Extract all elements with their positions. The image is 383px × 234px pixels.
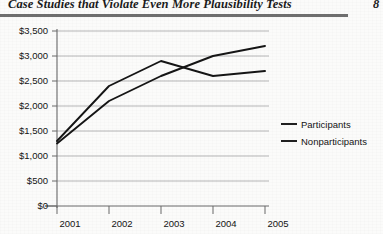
header-divider — [0, 14, 348, 17]
y-axis-labels: $3,500 $3,000 $2,500 $2,000 $1,500 $1,00… — [19, 25, 48, 211]
legend-label-nonparticipants: Nonparticipants — [301, 136, 367, 147]
x-axis-labels: 2001 2002 2003 2004 2005 — [59, 218, 288, 229]
page-number: 8 — [373, 0, 383, 12]
page-title: Case Studies that Violate Even More Plau… — [8, 0, 292, 12]
x-tick-label: 2003 — [163, 218, 184, 229]
y-tick-label: $3,000 — [19, 50, 48, 61]
y-tick-label: $1,500 — [19, 125, 48, 136]
y-tick-label: $500 — [27, 175, 48, 186]
y-tick-label: $1,000 — [19, 150, 48, 161]
y-tick-label: $0 — [37, 200, 48, 211]
line-chart: $3,500 $3,000 $2,500 $2,000 $1,500 $1,00… — [0, 18, 383, 234]
y-tick-label: $2,000 — [19, 100, 48, 111]
x-tickmarks — [57, 206, 265, 214]
chart-legend: Participants Nonparticipants — [281, 119, 367, 147]
x-tick-label: 2001 — [59, 218, 80, 229]
x-tick-label: 2002 — [111, 218, 132, 229]
y-tick-label: $2,500 — [19, 75, 48, 86]
legend-label-participants: Participants — [301, 119, 351, 130]
y-tick-label: $3,500 — [19, 25, 48, 36]
series-line-participants — [57, 61, 265, 141]
x-tick-label: 2004 — [215, 218, 236, 229]
page-header: Case Studies that Violate Even More Plau… — [0, 0, 383, 18]
x-tick-label: 2005 — [267, 218, 288, 229]
chart-canvas: $3,500 $3,000 $2,500 $2,000 $1,500 $1,00… — [0, 18, 383, 234]
